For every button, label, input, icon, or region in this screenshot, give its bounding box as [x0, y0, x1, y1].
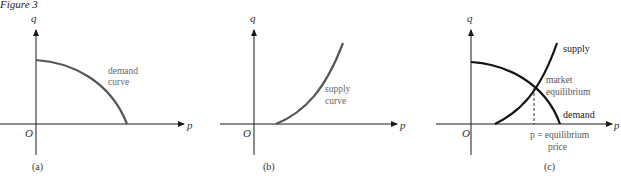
- y-axis-label: q: [250, 12, 256, 24]
- x-axis-label: p: [399, 119, 406, 131]
- curve-label-2: curve: [108, 77, 129, 87]
- y-axis-label: q: [31, 12, 37, 24]
- panel-b: q p O supply curve (b): [220, 12, 406, 173]
- origin-label: O: [25, 127, 33, 139]
- caption: (b): [263, 161, 275, 173]
- price-label-1: p = equilibrium: [530, 130, 590, 140]
- price-label-2: price: [548, 142, 567, 152]
- curve-label-2: curve: [325, 96, 346, 106]
- figure-canvas: q p O demand curve (a) q p O supply curv…: [0, 0, 621, 176]
- supply-label: supply: [563, 43, 590, 54]
- origin-label: O: [462, 127, 470, 139]
- curve-label-1: supply: [325, 84, 351, 94]
- demand-label: demand: [563, 109, 595, 120]
- origin-label: O: [243, 127, 251, 139]
- x-axis-label: p: [186, 119, 193, 131]
- equilibrium-label-2: equilibrium: [546, 87, 591, 97]
- caption: (a): [32, 161, 43, 173]
- y-axis-label: q: [467, 12, 473, 24]
- x-axis-label: p: [613, 119, 620, 131]
- curve-label-1: demand: [108, 66, 138, 76]
- panel-c: q p O supply market equilibrium demand p…: [436, 12, 620, 173]
- equilibrium-label-1: market: [546, 75, 573, 85]
- caption: (c): [544, 161, 555, 173]
- panel-a: q p O demand curve (a): [0, 12, 193, 173]
